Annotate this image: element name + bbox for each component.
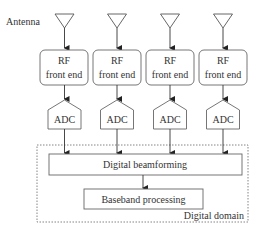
adc-label: ADC: [106, 114, 127, 125]
adc-label: ADC: [54, 114, 75, 125]
rf-label: front end: [46, 69, 82, 80]
adc-label: ADC: [212, 114, 233, 125]
chain-4: RF front end ADC: [199, 14, 247, 153]
antenna-label: Antenna: [6, 16, 40, 27]
rf-label: RF: [164, 55, 177, 66]
rf-label: RF: [58, 55, 71, 66]
rf-label: RF: [217, 55, 230, 66]
chain-2: RF front end ADC: [93, 14, 141, 153]
antenna-icon: [161, 14, 180, 28]
digital-beamforming-label: Digital beamforming: [103, 159, 187, 170]
rf-label: front end: [99, 69, 135, 80]
rf-label: RF: [111, 55, 124, 66]
antenna-icon: [55, 14, 74, 28]
antenna-icon: [214, 14, 233, 28]
digital-domain-label: Digital domain: [184, 210, 244, 221]
chain-3: RF front end ADC: [146, 14, 194, 153]
baseband-processing-label: Baseband processing: [101, 194, 185, 205]
chain-1: RF front end ADC: [40, 14, 88, 153]
beamforming-diagram: Antenna Digital domain RF front end ADC …: [0, 0, 262, 233]
antenna-icon: [108, 14, 127, 28]
rf-label: front end: [152, 69, 188, 80]
rf-label: front end: [205, 69, 241, 80]
adc-label: ADC: [159, 114, 180, 125]
